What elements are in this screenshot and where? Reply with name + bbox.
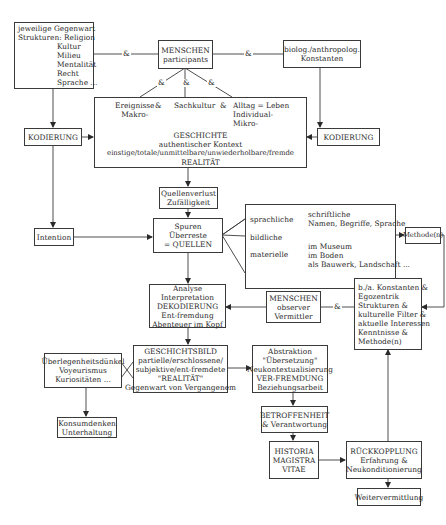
abstraktion-line: Neukontextualisierung — [247, 365, 333, 374]
kodierung-label: KODIERUNG — [324, 133, 374, 142]
alltag-label: Alltag = Leben — [233, 101, 289, 110]
rueckkopplung-line: RÜCKKOPPLUNG — [350, 447, 417, 456]
and-connector: & — [157, 79, 166, 87]
konstanten-line: Konstanten — [301, 54, 344, 63]
ereignisse-label: Ereignisse — [115, 101, 154, 110]
konstanten-line: biolog./anthropolog. — [284, 45, 360, 54]
menschen-participants-box: MENSCHEN participants — [158, 40, 213, 69]
geschichte-title: GESCHICHTE — [95, 131, 306, 140]
abstraktion-line: VER-FREMDUNG — [257, 374, 324, 383]
analyse-line: Ent-fremdung — [161, 311, 213, 320]
betroffenheit-line: BETROFFENHEIT — [260, 411, 329, 420]
konsumdenken-box: Konsumdenken Unterhaltung — [57, 417, 117, 438]
and-connector: & — [220, 101, 227, 110]
historia-line: HISTORIA — [274, 447, 313, 456]
filter-line: Egozentrik — [358, 292, 399, 301]
kodierung-right-box: KODIERUNG — [317, 128, 380, 146]
spuren-quellen-box: Spuren Überreste = QUELLEN — [153, 218, 223, 253]
geschichte-line: REALITÄT — [95, 158, 306, 167]
geschichtsbild-line: subjektive/ent-fremdete — [136, 365, 226, 374]
sachkultur-label: Sachkultur — [174, 101, 215, 110]
intention-label: Intention — [37, 233, 71, 242]
gegenwart-line: Kultur — [18, 42, 81, 51]
analyse-line: Analyse — [173, 284, 202, 293]
historia-line: MAGISTRA — [273, 456, 316, 465]
abstraktion-line: Beziehungsarbeit — [257, 383, 323, 392]
spuren-line: Spuren — [174, 222, 201, 231]
namen-label: Namen, Begriffe, Sprache — [308, 219, 405, 228]
observer-line: Vermittler — [274, 312, 312, 321]
quellen-types-box: sprachliche schriftliche Namen, Begriffe… — [245, 204, 396, 289]
ueberlegenheit-box: Überlegenheitsdünkel Voyeurismus Kuriosi… — [44, 353, 122, 388]
filter-line: aktuelle Interessen — [358, 319, 430, 328]
bauwerk-label: als Bauwerk, Landschaft ... — [308, 260, 410, 269]
analyse-line: Interpretation — [161, 293, 214, 302]
individual-label: Individual- — [233, 110, 289, 119]
sprachliche-label: sprachliche — [250, 215, 293, 224]
rueckkopplung-line: Erfahrung & — [360, 456, 408, 465]
makro-label: Makro- — [115, 110, 154, 119]
geschichtsbild-box: GESCHICHTSBILD partielle/erschlossene/ s… — [133, 345, 228, 393]
and-connector: & — [333, 303, 342, 311]
konsumdenken-line: Unterhaltung — [62, 428, 113, 437]
gegenwart-line: jeweilige Gegenwart — [18, 24, 95, 33]
participants-label: participants — [163, 55, 208, 64]
konsumdenken-line: Konsumdenken — [58, 419, 116, 428]
quellenverlust-line: Zufälligkeit — [167, 198, 210, 207]
weitervermittlung-label: Weitervermittlung — [355, 493, 424, 502]
materielle-label: materielle — [250, 250, 288, 259]
analyse-line: Abenteuer im Kopf — [152, 320, 223, 329]
intention-box: Intention — [34, 228, 74, 246]
filter-line: Methode(n) — [358, 337, 402, 346]
filter-line: Strukturen & — [358, 301, 408, 310]
filter-line: kulturelle Filter & — [358, 310, 426, 319]
methode-label: Methode(n) — [403, 231, 443, 240]
boden-label: im Boden — [308, 251, 343, 260]
biolog-konstanten-box: biolog./anthropolog. Konstanten — [283, 40, 361, 68]
methode-box: Methode(n) — [405, 227, 441, 244]
and-connector: & — [244, 50, 253, 58]
geschichte-line: authentischer Kontext — [95, 140, 306, 149]
museum-label: im Museum — [308, 242, 352, 251]
and-connector: & — [122, 50, 131, 58]
and-connector: & — [182, 79, 191, 87]
filter-line: b./a. Konstanten & — [358, 283, 428, 292]
analyse-line: DEKODIERUNG — [157, 302, 218, 311]
ueberlegenheit-line: Kuriositäten ... — [55, 375, 111, 384]
betroffenheit-box: BETROFFENHEIT & Verantwortung — [261, 406, 328, 433]
abstraktion-line: "Übersetzung" — [263, 356, 318, 365]
gegenwart-line: Mentalität — [18, 60, 96, 69]
gegenwart-line: Strukturen: Religion — [18, 33, 95, 42]
spuren-line: = QUELLEN — [164, 240, 212, 249]
alltag-column: Alltag = Leben Individual- Mikro- — [233, 101, 289, 128]
rueckkopplung-box: RÜCKKOPPLUNG Erfahrung & Neukonditionier… — [346, 441, 422, 479]
mikro-label: Mikro- — [233, 119, 289, 128]
ueberlegenheit-line: Voyeurismus — [59, 366, 107, 375]
kodierung-left-box: KODIERUNG — [24, 128, 82, 146]
weitervermittlung-box: Weitervermittlung — [357, 488, 421, 506]
historia-box: HISTORIA MAGISTRA VITAE — [269, 441, 319, 479]
quellenverlust-line: Quellenverlust — [161, 189, 216, 198]
bildliche-label: bildliche — [250, 233, 282, 242]
abstraktion-line: Abstraktion — [268, 347, 312, 356]
quellenverlust-box: Quellenverlust Zufälligkeit — [159, 187, 218, 209]
gegenwart-strukturen-box: jeweilige Gegenwart Strukturen: Religion… — [14, 22, 94, 89]
geschichte-line: einstige/totale/unmittelbare/unwiederhol… — [95, 149, 306, 158]
geschichtsbild-line: GESCHICHTSBILD — [144, 347, 217, 356]
and-connector: & — [207, 79, 216, 87]
rueckkopplung-line: Neukonditionierung — [346, 465, 421, 474]
spuren-line: Überreste — [169, 231, 207, 240]
ereignisse-column: Ereignisse Makro- — [115, 101, 154, 119]
analyse-box: Analyse Interpretation DEKODIERUNG Ent-f… — [149, 284, 226, 328]
geschichtsbild-line: partielle/erschlossene/ — [138, 356, 223, 365]
konstanten-filter-box: b./a. Konstanten & Egozentrik Strukturen… — [354, 278, 422, 350]
gegenwart-line: Sprache ... — [18, 78, 97, 87]
and-connector: & — [155, 101, 162, 110]
schriftliche-label: schriftliche — [308, 210, 350, 219]
geschichtsbild-line: "REALITÄT" — [158, 374, 203, 383]
geschichte-text: GESCHICHTE authentischer Kontext einstig… — [95, 131, 306, 167]
historia-line: VITAE — [282, 465, 306, 474]
observer-line: observer — [277, 303, 310, 312]
abstraktion-box: Abstraktion "Übersetzung" Neukontextuali… — [252, 345, 328, 393]
geschichtsbild-line: Gegenwart von Vergangenem — [125, 383, 236, 392]
